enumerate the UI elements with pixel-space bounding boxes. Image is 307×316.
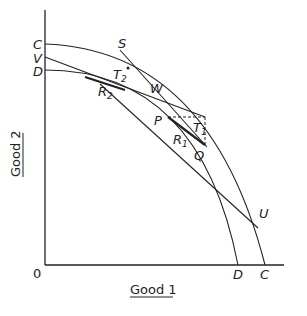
trade-diagram: 0 Good 1 Good 2 C V D D C S T2 R2 W P T1… xyxy=(0,0,307,316)
point-t2-dot xyxy=(127,67,130,70)
label-q: Q xyxy=(194,148,204,163)
diagram-canvas: 0 Good 1 Good 2 C V D D C S T2 R2 W P T1… xyxy=(0,0,307,316)
label-w: W xyxy=(150,81,164,96)
label-d-y: D xyxy=(33,64,43,79)
trade-line-u xyxy=(100,84,258,228)
x-axis-label: Good 1 xyxy=(130,282,177,297)
terms-of-trade-line-v xyxy=(45,57,205,117)
outer-ppf-curve xyxy=(45,44,265,265)
label-d-x: D xyxy=(233,267,243,282)
y-axis-label: Good 2 xyxy=(8,130,23,177)
label-s: S xyxy=(118,36,126,51)
label-p: P xyxy=(154,113,162,128)
label-r1: R1 xyxy=(173,132,188,149)
label-r2: R2 xyxy=(98,84,113,101)
label-c-y: C xyxy=(33,37,43,52)
label-c-x: C xyxy=(260,267,270,282)
label-u: U xyxy=(259,206,269,221)
origin-label: 0 xyxy=(33,266,41,281)
label-t2: T2 xyxy=(113,67,127,84)
inner-ppf-curve xyxy=(45,70,238,265)
